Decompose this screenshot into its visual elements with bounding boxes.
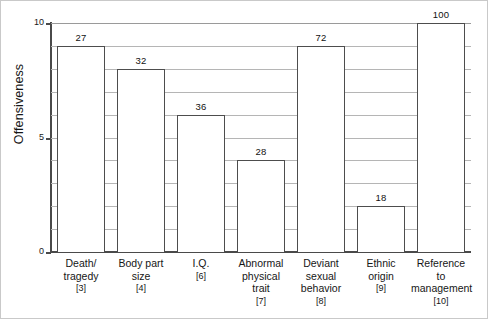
bar[interactable] [237, 160, 285, 252]
bar[interactable] [417, 23, 465, 252]
bar[interactable] [57, 46, 105, 252]
category-reference: [4] [111, 282, 171, 295]
category-label: Death/tragedy[3] [51, 257, 111, 295]
category-label: Body partsize[4] [111, 257, 171, 295]
bar-value-label: 100 [411, 9, 471, 20]
category-label-line: size [111, 270, 171, 283]
y-tick-label: 5 [28, 132, 44, 142]
bar[interactable] [117, 69, 165, 252]
category-label-line: origin [351, 270, 411, 283]
category-label: Reference tomanagement[10] [411, 257, 471, 307]
category-label-line: Deviant [291, 257, 351, 270]
gridline [51, 46, 471, 47]
bar[interactable] [297, 46, 345, 252]
y-tick-label: 10 [28, 17, 44, 27]
y-tick-label: 0 [28, 246, 44, 256]
category-label-line: Abnormal [231, 257, 291, 270]
category-label-line: tragedy [51, 270, 111, 283]
category-label: Deviantsexualbehavior[8] [291, 257, 351, 307]
gridline [51, 69, 471, 70]
gridline [51, 115, 471, 116]
gridline [51, 92, 471, 93]
category-label-line: behavior [291, 282, 351, 295]
category-label-line: management [411, 282, 471, 295]
category-label-line: Death/ [51, 257, 111, 270]
category-label-line: Ethnic [351, 257, 411, 270]
gridline [51, 138, 471, 139]
bar[interactable] [357, 206, 405, 252]
category-label-line: physical [231, 270, 291, 283]
category-label-line: Reference to [411, 257, 471, 282]
bar[interactable] [177, 115, 225, 252]
category-label: Ethnicorigin[9] [351, 257, 411, 295]
y-axis-title: Offensiveness [12, 34, 26, 174]
category-reference: [10] [411, 295, 471, 308]
category-label-line: Body part [111, 257, 171, 270]
gridline [51, 23, 471, 24]
chart-figure: Offensiveness 0510 273236287218100 Death… [0, 0, 488, 319]
bar-value-label: 36 [171, 101, 231, 112]
category-label-line: trait [231, 282, 291, 295]
category-reference: [3] [51, 282, 111, 295]
bar-value-label: 27 [51, 32, 111, 43]
category-reference: [9] [351, 282, 411, 295]
bar-value-label: 72 [291, 32, 351, 43]
category-label-line: sexual [291, 270, 351, 283]
bar-value-label: 32 [111, 55, 171, 66]
bar-value-label: 28 [231, 146, 291, 157]
category-label-line: I.Q. [171, 257, 231, 270]
category-reference: [6] [171, 270, 231, 283]
category-reference: [7] [231, 295, 291, 308]
category-label: Abnormalphysicaltrait[7] [231, 257, 291, 307]
category-label: I.Q.[6] [171, 257, 231, 282]
bar-value-label: 18 [351, 192, 411, 203]
y-tick-mark [46, 252, 51, 254]
category-reference: [8] [291, 295, 351, 308]
